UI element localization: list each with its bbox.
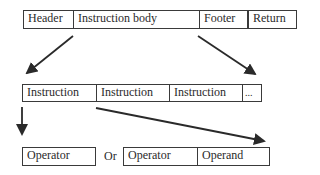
- header-cell: Header: [24, 11, 74, 28]
- arrow-long-diagonal: [96, 108, 264, 141]
- ellipsis-cell: ...: [243, 85, 260, 101]
- return-cell: Return: [248, 11, 295, 28]
- program-structure-row: Header Instruction body Footer Return: [23, 10, 297, 29]
- instruction-body-row: Instruction Instruction Instruction ...: [22, 84, 262, 102]
- operator-operand-box: Operator Operand: [123, 147, 270, 166]
- operator-only-box: Operator: [22, 147, 96, 166]
- instruction-body-cell: Instruction body: [74, 11, 200, 28]
- footer-cell: Footer: [200, 11, 248, 28]
- instruction-cell-2: Instruction: [97, 85, 170, 101]
- instruction-cell-1: Instruction: [23, 85, 97, 101]
- instruction-cell-3: Instruction: [170, 85, 243, 101]
- or-separator: Or: [104, 149, 117, 164]
- arrow-right-down: [198, 36, 255, 74]
- arrow-left-down: [27, 36, 73, 73]
- operand-cell: Operand: [198, 148, 268, 165]
- operator-cell-single: Operator: [23, 148, 94, 165]
- operator-cell-pair: Operator: [124, 148, 198, 165]
